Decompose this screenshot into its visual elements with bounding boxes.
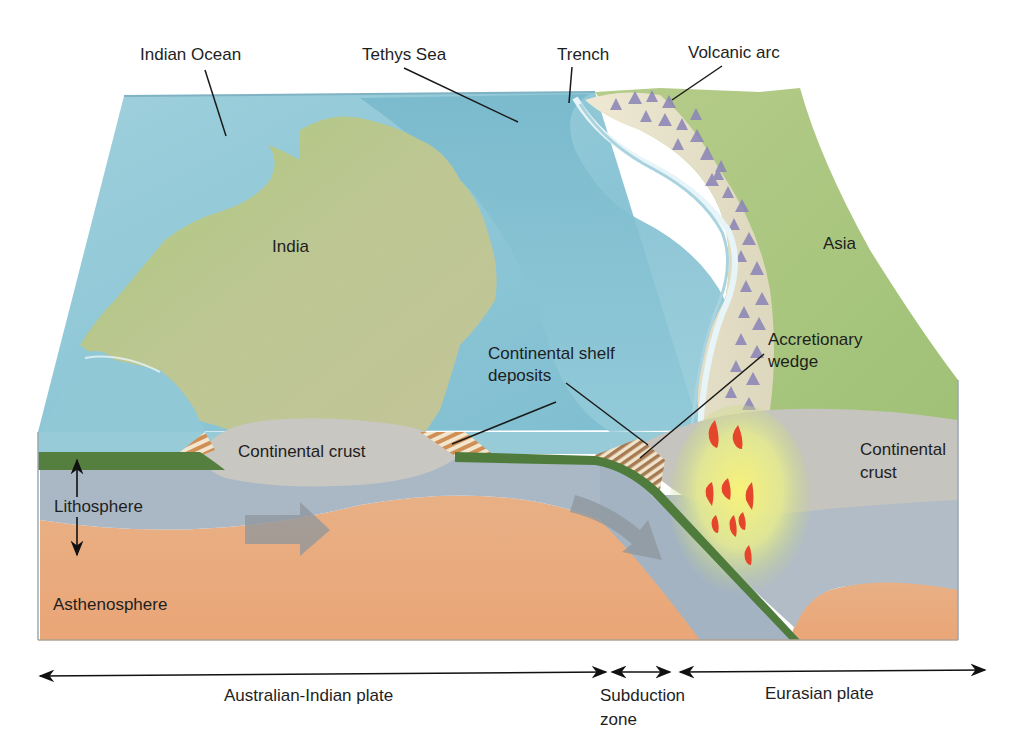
oceanic-crust-band bbox=[38, 452, 225, 470]
label-subduction-zone-line1: Subduction bbox=[600, 686, 685, 706]
label-continental-shelf-deposits-line1: Continental shelf bbox=[488, 344, 615, 364]
label-trench: Trench bbox=[557, 45, 609, 65]
label-continental-crust-right-line2: crust bbox=[860, 463, 897, 483]
label-tethys-sea: Tethys Sea bbox=[362, 45, 446, 65]
label-accretionary-wedge-line2: wedge bbox=[768, 352, 818, 372]
label-lithosphere: Lithosphere bbox=[53, 497, 144, 517]
label-india: India bbox=[272, 237, 309, 257]
label-volcanic-arc: Volcanic arc bbox=[688, 43, 780, 63]
subduction-block-diagram: Indian Ocean Tethys Sea Trench Volcanic … bbox=[0, 0, 1015, 747]
label-continental-crust-right-line1: Continental bbox=[860, 440, 946, 460]
label-accretionary-wedge-line1: Accretionary bbox=[768, 330, 862, 350]
label-asia: Asia bbox=[823, 234, 856, 254]
label-australian-indian-plate: Australian-Indian plate bbox=[224, 686, 393, 706]
label-indian-ocean: Indian Ocean bbox=[140, 45, 241, 65]
label-asthenosphere: Asthenosphere bbox=[53, 595, 167, 615]
eurasian-plate-extent-arrow bbox=[680, 670, 985, 672]
label-subduction-zone-line2: zone bbox=[600, 710, 637, 730]
australian-indian-plate-extent-arrow bbox=[40, 672, 606, 676]
label-continental-shelf-deposits-line2: deposits bbox=[488, 366, 551, 386]
label-eurasian-plate: Eurasian plate bbox=[765, 684, 874, 704]
label-continental-crust-left: Continental crust bbox=[238, 442, 366, 462]
